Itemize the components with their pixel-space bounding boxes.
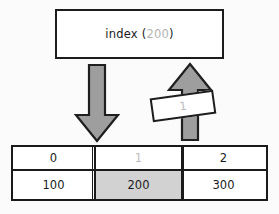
expression-box: index (200): [55, 9, 224, 59]
array-value-cell-0: 100: [13, 171, 94, 199]
array-table: 0 1 2 100 200 300: [11, 145, 268, 201]
close-paren: ): [169, 27, 174, 41]
returned-index-value: 1: [178, 99, 187, 114]
array-index-cell-0: 0: [13, 147, 94, 169]
method-name-label: index: [105, 27, 137, 41]
array-index-cell-1: 1: [94, 147, 183, 169]
array-index-row: 0 1 2: [13, 147, 266, 169]
array-index-cell-2: 2: [183, 147, 264, 169]
highlight-column-left-edge: [92, 145, 93, 201]
array-value-cell-2: 300: [183, 171, 264, 199]
highlight-column-right-edge: [183, 145, 184, 201]
diagram-canvas: index (200) 1 0 1 2 100 200 300: [0, 0, 279, 214]
index-lookup-arrow-down-icon: [74, 63, 120, 143]
array-value-row: 100 200 300: [13, 169, 266, 199]
expression-text: index (200): [105, 27, 173, 41]
array-value-cell-1: 200: [94, 171, 183, 199]
argument-value: 200: [146, 27, 169, 41]
